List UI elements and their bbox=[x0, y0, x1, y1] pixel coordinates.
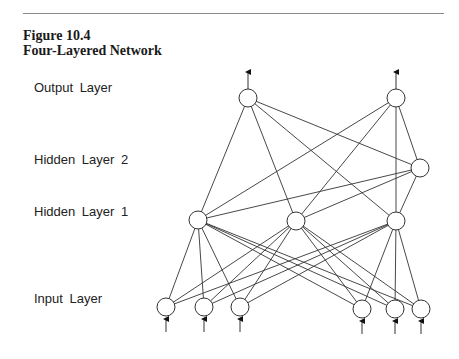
connection-edge bbox=[166, 221, 296, 307]
connection-edge bbox=[198, 98, 396, 220]
hidden1-node-2 bbox=[287, 212, 305, 230]
connection-edge bbox=[396, 221, 421, 309]
input-node-1 bbox=[157, 298, 175, 316]
connection-edge bbox=[198, 98, 248, 220]
connection-edge bbox=[296, 168, 420, 221]
connection-edge bbox=[296, 221, 421, 309]
hidden1-node-1 bbox=[189, 211, 207, 229]
connection-edge bbox=[166, 220, 198, 307]
hidden1-node-3 bbox=[387, 212, 405, 230]
connection-edge bbox=[198, 168, 420, 220]
connection-edge bbox=[240, 221, 296, 307]
input-node-5 bbox=[386, 300, 404, 318]
neuron-nodes bbox=[157, 89, 430, 318]
connection-edge bbox=[296, 221, 362, 309]
hidden2-node-1 bbox=[411, 159, 429, 177]
connection-edge bbox=[395, 221, 396, 309]
network-diagram bbox=[0, 0, 459, 359]
connection-edge bbox=[198, 220, 395, 309]
input-node-3 bbox=[231, 298, 249, 316]
connection-edge bbox=[248, 98, 420, 168]
connection-edge bbox=[240, 221, 396, 307]
output-node-1 bbox=[239, 89, 257, 107]
connection-edge bbox=[296, 98, 396, 221]
input-node-6 bbox=[412, 300, 430, 318]
output-node-2 bbox=[387, 89, 405, 107]
input-node-2 bbox=[195, 298, 213, 316]
input-node-4 bbox=[353, 300, 371, 318]
connection-edge bbox=[248, 98, 396, 221]
io-arrows bbox=[166, 72, 421, 334]
connection-edges bbox=[166, 98, 421, 309]
connection-edge bbox=[396, 98, 420, 168]
